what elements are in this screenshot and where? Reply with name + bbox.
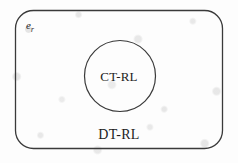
outer-set-label: DT-RL <box>0 128 238 142</box>
inner-set-label: CT-RL <box>0 70 238 83</box>
universe-symbol-subscript: r <box>31 25 34 34</box>
universe-symbol-label: er <box>26 20 34 34</box>
set-diagram-figure: er CT-RL DT-RL <box>0 0 238 163</box>
